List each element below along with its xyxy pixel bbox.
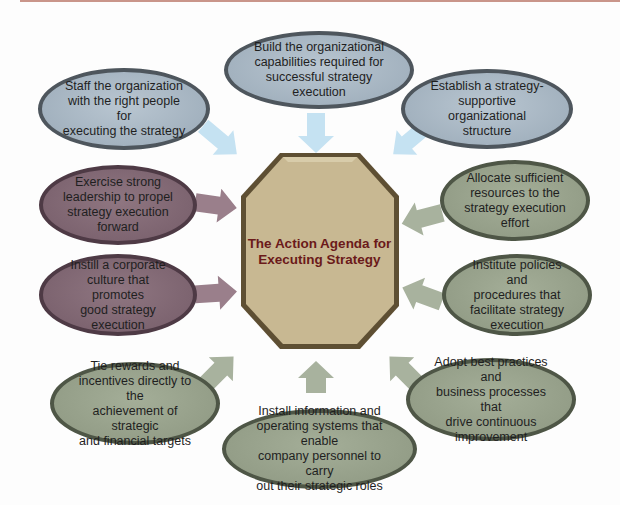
node-institute-policies: Institute policies and procedures that f… [442,254,592,336]
node-adopt-best-practices: Adopt best practices and business proces… [406,358,576,441]
node-text-line: improvement [428,430,554,445]
arrow-right-icon [194,275,238,312]
node-text-line: business processes that [428,385,554,415]
node-text-line: execution [464,318,570,333]
node-text-line: culture that promotes [61,273,175,303]
node-allocate-resources: Allocate sufficient resources to the str… [440,160,590,241]
node-exercise-leadership: Exercise strong leadership to propel str… [39,165,197,245]
node-text-line: executing the strategy [60,124,188,139]
node-text-line: achievement of strategic [72,404,198,434]
node-text-line: Build the organizational [246,40,392,55]
arrow-left-icon [397,272,448,318]
node-text-line: Tie rewards and [72,359,198,374]
node-text-line: strategy execution [63,205,173,220]
node-text-line: supportive organizational [423,94,551,124]
node-text-line: capabilities required for [246,55,392,70]
arrow-down-icon [298,113,334,153]
arrow-right-icon [193,185,239,225]
action-agenda-diagram: The Action Agenda for Executing Strategy… [0,0,620,505]
node-staff-organization: Staff the organization with the right pe… [38,68,210,150]
node-text-line: Adopt best practices and [428,355,554,385]
node-text-line: procedures that [464,288,570,303]
node-text-line: Install information and [244,404,395,419]
node-text-line: drive continuous [428,415,554,430]
node-establish-structure: Establish a strategy- supportive organiz… [401,69,573,149]
node-text-line: and financial targets [72,434,198,449]
node-text-line: good strategy [61,303,175,318]
node-text-line: out their strategic roles [244,479,395,494]
node-build-capabilities: Build the organizational capabilities re… [224,31,414,109]
arrow-up-icon [298,361,334,393]
node-text-line: Exercise strong [63,175,173,190]
node-text-line: Allocate sufficient [464,171,565,186]
node-tie-rewards: Tie rewards and incentives directly to t… [50,362,220,445]
node-install-systems: Install information and operating system… [222,409,417,489]
node-text-line: leadership to propel [63,190,173,205]
node-text-line: with the right people for [60,94,188,124]
node-text-line: Establish a strategy- [423,79,551,94]
node-text-line: Instill a corporate [61,258,175,273]
node-text-line: Institute policies and [464,258,570,288]
node-text-line: resources to the [464,186,565,201]
node-text-line: execution [61,318,175,333]
node-text-line: Staff the organization [60,79,188,94]
node-text-line: strategy execution [464,201,565,216]
node-text-line: facilitate strategy [464,303,570,318]
center-title: The Action Agenda for Executing Strategy [242,155,397,348]
node-text-line: incentives directly to the [72,374,198,404]
node-text-line: operating systems that enable [244,419,395,449]
node-text-line: forward [63,220,173,235]
node-text-line: company personnel to carry [244,449,395,479]
node-text-line: effort [464,216,565,231]
node-text-line: successful strategy execution [246,70,392,100]
node-text-line: structure [423,124,551,139]
node-instill-culture: Instill a corporate culture that promote… [39,254,197,336]
